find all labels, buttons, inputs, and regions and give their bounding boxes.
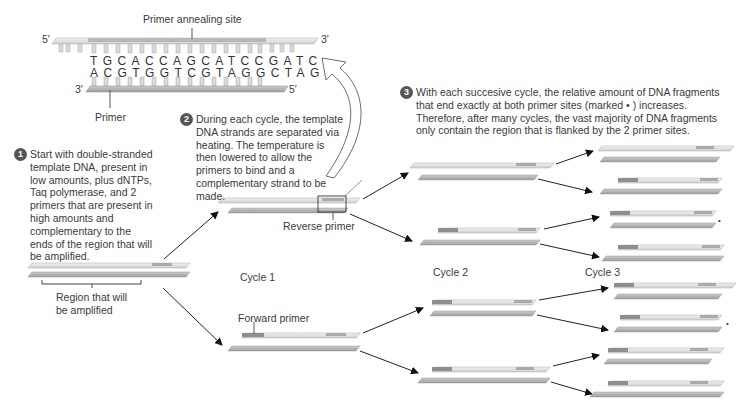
forward-primer-label: Forward primer <box>238 312 309 324</box>
step-1-text: Start with double-stranded template DNA,… <box>30 148 156 263</box>
bottom-strand-3prime: 3′ <box>75 83 83 95</box>
region-label: Region that will be amplified <box>56 291 138 316</box>
top-strand-3prime: 3′ <box>321 33 329 45</box>
step-2: 2During each cycle, the template DNA str… <box>180 113 360 203</box>
target-marker-1: • <box>718 216 721 225</box>
step-1-badge: 1 <box>14 148 27 161</box>
bottom-strand-5prime: 5′ <box>289 83 297 95</box>
step-2-text: During each cycle, the template DNA stra… <box>196 113 346 203</box>
cycle-3-label: Cycle 3 <box>585 266 620 278</box>
template-dna <box>28 263 190 288</box>
target-marker-2: • <box>726 319 729 328</box>
step-1: 1Start with double-stranded template DNA… <box>14 148 164 263</box>
step-3-text: With each succesive cycle, the relative … <box>416 86 734 137</box>
reverse-primer-label: Reverse primer <box>283 220 355 232</box>
cycle-2-label: Cycle 2 <box>433 266 468 278</box>
top-strand-5prime: 5′ <box>42 33 50 45</box>
cycle1-bottom-strands <box>228 322 360 351</box>
step-3-badge: 3 <box>400 86 413 99</box>
cycle2-strands <box>410 163 554 383</box>
step-3: 3With each succesive cycle, the relative… <box>400 86 745 137</box>
step-2-badge: 2 <box>180 113 193 126</box>
bottom-sequence: ACGTGGTCGTAGGCTAG <box>90 66 325 80</box>
primer-annealing-label: Primer annealing site <box>143 13 242 25</box>
cycle-1-label: Cycle 1 <box>240 271 275 283</box>
primer-label: Primer <box>95 111 126 123</box>
